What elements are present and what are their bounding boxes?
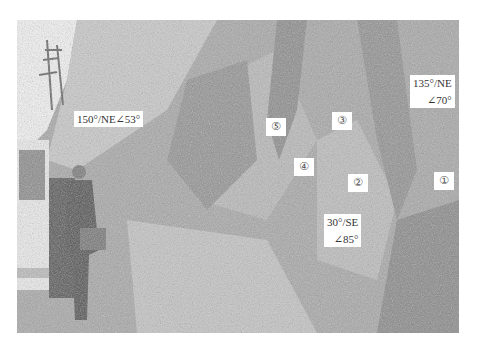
zone-marker-2: ② xyxy=(348,174,368,192)
orientation-label-line2: ∠70° xyxy=(413,94,452,106)
orientation-label-30-se-85: 30°/SE ∠85° xyxy=(324,214,361,247)
rock-slope-illustration xyxy=(17,20,459,333)
orientation-label-150-ne-53: 150°/NE∠53° xyxy=(74,111,143,127)
orientation-label-135-ne-70: 135°/NE ∠70° xyxy=(410,75,455,108)
zone-marker-5: ⑤ xyxy=(266,118,286,136)
orientation-label-line2: ∠85° xyxy=(327,233,358,245)
rock-slope-photo xyxy=(17,20,459,333)
orientation-label-line1: 135°/NE xyxy=(413,77,452,89)
zone-marker-3: ③ xyxy=(332,112,352,130)
orientation-label-line1: 30°/SE xyxy=(327,216,358,228)
zone-marker-1: ① xyxy=(434,172,454,190)
zone-marker-4: ④ xyxy=(294,158,314,176)
